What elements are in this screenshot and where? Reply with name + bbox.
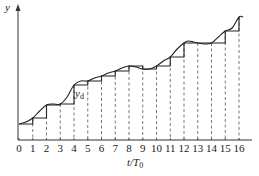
zoh-sampling-diagram: 012345678910111213141516 y yd t/T0 xyxy=(0,0,259,176)
yd-staircase xyxy=(19,17,239,124)
x-tick-label: 1 xyxy=(30,142,36,154)
sample-dashed-lines xyxy=(33,17,239,140)
x-axis-label: t/T0 xyxy=(127,156,143,170)
x-tick-label: 10 xyxy=(151,142,163,154)
x-tick-label: 16 xyxy=(234,142,246,154)
x-tick-label: 7 xyxy=(113,142,119,154)
x-tick-label: 13 xyxy=(192,142,204,154)
yd-label: yd xyxy=(74,87,84,101)
x-tick-label: 6 xyxy=(99,142,105,154)
x-tick-label: 3 xyxy=(58,142,64,154)
x-tick-label: 8 xyxy=(126,142,132,154)
x-tick-label: 9 xyxy=(140,142,146,154)
x-tick-label: 4 xyxy=(71,142,77,154)
x-tick-label: 0 xyxy=(16,142,22,154)
x-tick-label: 14 xyxy=(206,142,218,154)
x-tick-label: 5 xyxy=(85,142,91,154)
x-tick-label: 12 xyxy=(179,142,190,154)
y-axis-arrow-icon xyxy=(16,4,21,11)
x-tick-label: 2 xyxy=(44,142,50,154)
y-axis-label: y xyxy=(4,1,10,13)
x-tick-label: 15 xyxy=(220,142,232,154)
continuous-signal-curve xyxy=(19,16,243,124)
y-axis xyxy=(16,4,21,140)
x-tick-label: 11 xyxy=(165,142,176,154)
